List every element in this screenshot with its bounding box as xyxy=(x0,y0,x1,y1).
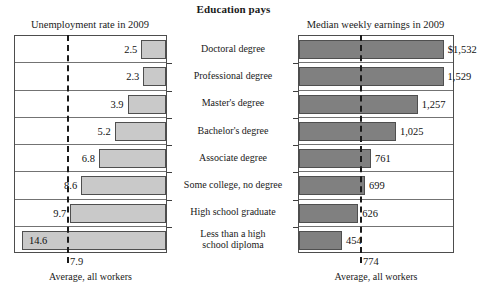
chart-row: 2.3 xyxy=(15,63,166,90)
bar-value-label: 761 xyxy=(375,150,391,167)
chart-row: 1,025 xyxy=(299,118,453,145)
bar xyxy=(299,176,365,195)
bar-value-label: $1,532 xyxy=(448,41,477,58)
bar-value-label: 1,257 xyxy=(422,96,446,113)
bar-value-label: 626 xyxy=(362,205,378,222)
chart-row: 6.8 xyxy=(15,145,166,172)
bar xyxy=(128,95,166,114)
bar xyxy=(141,40,166,59)
bar-value-label: 2.3 xyxy=(126,68,139,85)
chart-row: 699 xyxy=(299,172,453,199)
category-label: High school graduate xyxy=(190,206,276,218)
category-label-row: Bachelor's degree xyxy=(172,117,294,144)
category-label-row: Professional degree xyxy=(172,62,294,89)
chart-row: 14.6 xyxy=(15,227,166,254)
unemployment-average-line xyxy=(67,35,69,263)
category-label: Doctoral degree xyxy=(201,43,265,55)
bar-value-label: 1,025 xyxy=(400,123,424,140)
unemployment-average-caption: Average, all workers xyxy=(14,271,167,282)
bar-value-label: 14.6 xyxy=(29,232,47,249)
bar-value-label: 5.2 xyxy=(98,123,111,140)
bar xyxy=(143,67,166,86)
category-axis-labels: Doctoral degreeProfessional degreeMaster… xyxy=(172,35,294,253)
bar-value-label: 8.6 xyxy=(64,177,77,194)
earnings-average-line xyxy=(360,35,362,263)
bar xyxy=(299,231,342,250)
chart-row: 454 xyxy=(299,227,453,254)
unemployment-average-value: 7.9 xyxy=(70,256,83,267)
bar xyxy=(99,149,166,168)
category-label: Associate degree xyxy=(199,152,267,164)
chart-row: 1,257 xyxy=(299,91,453,118)
category-label: Master's degree xyxy=(202,97,265,109)
category-label: Less than a high school diploma xyxy=(200,228,265,251)
chart-row: 9.7 xyxy=(15,200,166,227)
category-label-row: Doctoral degree xyxy=(172,35,294,62)
bar xyxy=(115,122,166,141)
chart-row: 8.6 xyxy=(15,172,166,199)
chart-row: 2.5 xyxy=(15,36,166,63)
bar xyxy=(299,40,444,59)
bar-value-label: 2.5 xyxy=(124,41,137,58)
category-label: Some college, no degree xyxy=(184,179,282,191)
bar-value-label: 9.7 xyxy=(53,205,66,222)
category-label-row: High school graduate xyxy=(172,199,294,226)
chart-row: 5.2 xyxy=(15,118,166,145)
chart-row: 1,529 xyxy=(299,63,453,90)
left-panel-header: Unemployment rate in 2009 xyxy=(14,19,166,30)
bar-value-label: 699 xyxy=(369,177,385,194)
category-label: Bachelor's degree xyxy=(198,125,269,137)
chart-row: 761 xyxy=(299,145,453,172)
bar xyxy=(70,204,166,223)
bar xyxy=(299,95,418,114)
right-panel-header: Median weekly earnings in 2009 xyxy=(298,19,453,30)
chart-row: $1,532 xyxy=(299,36,453,63)
category-label-row: Less than a high school diploma xyxy=(172,226,294,253)
earnings-average-value: 774 xyxy=(363,256,379,267)
bar xyxy=(299,67,444,86)
earnings-average-caption: Average, all workers xyxy=(298,271,454,282)
category-label-row: Master's degree xyxy=(172,90,294,117)
chart-row: 3.9 xyxy=(15,91,166,118)
bar-value-label: 3.9 xyxy=(110,96,123,113)
page-title: Education pays xyxy=(0,3,467,15)
bar xyxy=(299,122,396,141)
earnings-chart-plot-area: $1,5321,5291,2571,025761699626454 xyxy=(298,35,454,253)
unemployment-chart-plot-area: 2.52.33.95.26.88.69.714.6 xyxy=(14,35,167,253)
category-label-row: Associate degree xyxy=(172,144,294,171)
bar xyxy=(81,176,166,195)
category-label-row: Some college, no degree xyxy=(172,171,294,198)
chart-row: 626 xyxy=(299,200,453,227)
category-label: Professional degree xyxy=(194,70,273,82)
bar xyxy=(299,204,358,223)
bar-value-label: 1,529 xyxy=(448,68,472,85)
bar-value-label: 6.8 xyxy=(82,150,95,167)
